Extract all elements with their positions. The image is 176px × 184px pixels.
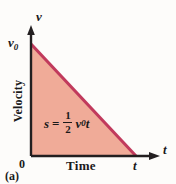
area-formula-annotation: s = 1 2 v0t: [44, 111, 89, 136]
formula-variable: t: [86, 117, 90, 130]
figure-caption: (a): [5, 170, 19, 182]
velocity-time-plot: [0, 0, 176, 184]
x-axis-arrowhead-icon: [149, 152, 160, 160]
y-axis-symbol-label: v: [36, 10, 42, 23]
y-initial-velocity-label: v0: [8, 36, 18, 52]
x-axis-tick-label: t: [133, 159, 137, 172]
x-axis-symbol-label: t: [163, 143, 167, 156]
x-axis-title: Time: [66, 159, 96, 172]
origin-label: 0: [19, 158, 25, 170]
formula-lhs: s: [44, 117, 49, 130]
y-axis-title: Velocity: [12, 66, 24, 136]
y-initial-velocity-subscript: 0: [14, 42, 19, 52]
formula-fraction-one-half: 1 2: [63, 110, 72, 135]
velocity-time-figure: v v0 Velocity 0 Time t t s = 1 2 v0t (a): [0, 0, 176, 184]
formula-numerator: 1: [64, 110, 72, 122]
formula-denominator: 2: [64, 123, 72, 135]
formula-equals: =: [52, 117, 59, 130]
y-axis-arrowhead-icon: [27, 25, 35, 35]
